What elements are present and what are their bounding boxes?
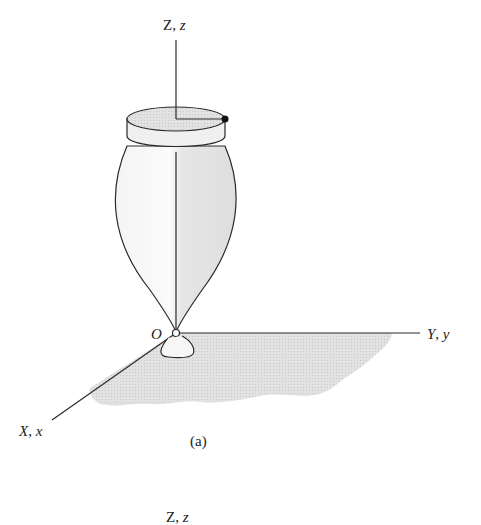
caption-a: (a) xyxy=(190,433,207,450)
ground-plane-shading xyxy=(89,333,392,406)
z-axis-label-b: Z, z xyxy=(166,509,189,525)
y-axis-label: Y, y xyxy=(427,326,450,342)
spinning-top-diagram: Z, z O Y, y X, x (a) Z, z xyxy=(0,0,481,525)
z-axis-label: Z, z xyxy=(163,17,186,33)
rim-point-marker xyxy=(222,116,229,123)
origin-label: O xyxy=(151,326,162,342)
pivot-circle xyxy=(173,330,180,337)
x-axis-label: X, x xyxy=(18,423,43,439)
